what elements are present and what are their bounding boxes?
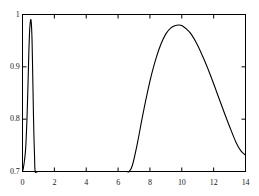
y-tick-label: 0.8 [0,115,20,123]
chart-figure: 02468101214 0.70.80.91 [0,0,259,196]
plot-canvas [0,0,259,196]
x-tick-label: 14 [242,179,250,187]
x-tick-label: 8 [148,179,152,187]
y-tick-label: 1 [0,11,20,19]
x-tick-label: 12 [210,179,218,187]
x-tick-label: 6 [116,179,120,187]
x-tick-label: 2 [52,179,56,187]
y-tick-label: 0.7 [0,168,20,176]
x-tick-label: 10 [178,179,186,187]
x-tick-label: 4 [84,179,88,187]
figure-background [0,0,259,196]
x-tick-label: 0 [21,179,25,187]
y-tick-label: 0.9 [0,63,20,71]
